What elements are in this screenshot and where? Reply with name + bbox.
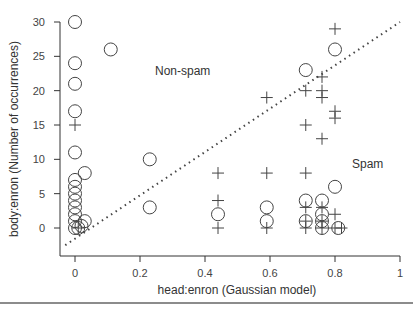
non-spam-point [69, 16, 82, 29]
spam-point [329, 112, 341, 124]
x-axis-ticks: 00.20.40.60.81 [72, 256, 403, 279]
x-tick-label: 0.2 [132, 267, 147, 279]
non-spam-point [104, 43, 117, 56]
x-tick-label: 0.4 [197, 267, 212, 279]
spam-point [300, 119, 312, 131]
non-spam-point [69, 146, 82, 159]
spam-point [316, 222, 328, 234]
y-tick-label: 30 [33, 16, 45, 28]
non-spam-point [69, 105, 82, 118]
spam-point [329, 208, 341, 220]
non-spam-point [69, 57, 82, 70]
x-tick-label: 0.8 [327, 267, 342, 279]
y-axis-ticks: 051015202530 [33, 16, 60, 234]
y-tick-label: 0 [39, 222, 45, 234]
non-spam-point [329, 43, 342, 56]
non-spam-point [143, 153, 156, 166]
annotation-non-spam: Non-spam [155, 64, 210, 78]
non-spam-point [143, 201, 156, 214]
spam-point [212, 167, 224, 179]
annotation-spam: Spam [352, 157, 383, 171]
non-spam-point [78, 167, 91, 180]
y-tick-label: 15 [33, 119, 45, 131]
spam-point [336, 222, 348, 234]
y-tick-label: 25 [33, 50, 45, 62]
non-spam-point [260, 201, 273, 214]
non-spam-point [329, 180, 342, 193]
spam-point [261, 167, 273, 179]
spam-point [261, 92, 273, 104]
x-tick-label: 1 [397, 267, 403, 279]
y-tick-label: 20 [33, 85, 45, 97]
spam-point [212, 195, 224, 207]
y-tick-label: 10 [33, 153, 45, 165]
non-spam-point [212, 208, 225, 221]
spam-point [300, 85, 312, 97]
non-spam-point [69, 77, 82, 90]
spam-point [329, 23, 341, 35]
scatter-chart: 051015202530 00.20.40.60.81 head:enron (… [0, 0, 413, 312]
x-tick-label: 0.6 [262, 267, 277, 279]
spam-point [300, 201, 312, 213]
x-tick-label: 0 [72, 267, 78, 279]
spam-point [300, 167, 312, 179]
y-tick-label: 5 [39, 188, 45, 200]
spam-point [316, 92, 328, 104]
spam-point [212, 222, 224, 234]
spam-point [69, 119, 81, 131]
spam-point [316, 133, 328, 145]
data-points [69, 16, 348, 235]
non-spam-point [299, 64, 312, 77]
spam-point [261, 222, 273, 234]
y-axis-title: body:enron (Number of occurrences) [7, 41, 21, 237]
spam-point [300, 222, 312, 234]
x-axis-title: head:enron (Gaussian model) [158, 283, 317, 297]
diagonal-reference-line [65, 22, 400, 245]
spam-point [316, 201, 328, 213]
